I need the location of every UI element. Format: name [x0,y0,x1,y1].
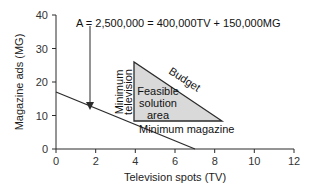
y-tick-label: 0 [42,143,48,155]
x-tick-label: 6 [172,155,178,167]
arrowhead-icon [86,102,94,110]
x-tick-label: 12 [288,155,300,167]
y-tick-label: 40 [36,9,48,21]
lp-chart: 0 10 20 30 40 0 2 4 6 8 10 12 Television… [0,0,316,196]
x-tick-label: 10 [248,155,260,167]
x-axis-title: Television spots (TV) [124,171,226,183]
x-tick-label: 4 [132,155,138,167]
min-tv-label: television [122,69,134,115]
feasible-label: Feasible [137,85,179,97]
x-tick-label: 8 [212,155,218,167]
y-tick-label: 30 [36,43,48,55]
y-tick-label: 20 [36,76,48,88]
y-tick-label: 10 [36,110,48,122]
equation-label: A = 2,500,000 = 400,000TV + 150,000MG [76,17,281,29]
feasible-label: solution [139,97,177,109]
x-tick-label: 0 [53,155,59,167]
y-ticks [52,15,56,149]
y-axis-title: Magazine ads (MG) [13,34,25,131]
min-magazine-label: Minimum magazine [139,123,234,135]
x-ticks [56,149,294,153]
feasible-label: area [147,109,170,121]
x-tick-label: 2 [93,155,99,167]
